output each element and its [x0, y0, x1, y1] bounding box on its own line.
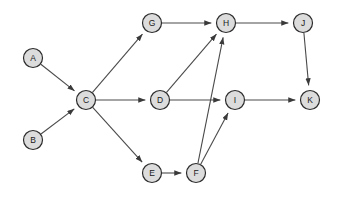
node-label-k: K — [307, 95, 313, 105]
node-label-h: H — [223, 18, 229, 28]
node-k[interactable]: K — [301, 91, 320, 110]
node-label-j: J — [301, 18, 305, 28]
edge-j-to-k — [304, 33, 309, 85]
node-g[interactable]: G — [143, 14, 162, 33]
node-i[interactable]: I — [226, 91, 245, 110]
edge-f-to-i — [201, 113, 228, 164]
node-b[interactable]: B — [24, 131, 43, 150]
nodes-layer: ABCDEFGHIJK — [24, 14, 320, 183]
node-e[interactable]: E — [143, 164, 162, 183]
node-d[interactable]: D — [151, 91, 170, 110]
edge-a-to-c — [41, 64, 75, 91]
edge-d-to-h — [167, 34, 217, 92]
node-h[interactable]: H — [217, 14, 236, 33]
node-label-f: F — [193, 168, 198, 178]
node-c[interactable]: C — [77, 91, 96, 110]
edge-c-to-e — [93, 107, 142, 162]
node-label-i: I — [234, 95, 236, 105]
node-label-e: E — [149, 168, 155, 178]
diagram-canvas: ABCDEFGHIJK — [0, 0, 338, 198]
node-label-a: A — [30, 53, 36, 63]
directed-graph: ABCDEFGHIJK — [0, 0, 338, 198]
edge-c-to-g — [93, 34, 143, 92]
node-a[interactable]: A — [24, 49, 43, 68]
node-label-c: C — [83, 95, 89, 105]
node-label-b: B — [30, 135, 36, 145]
node-label-d: D — [157, 95, 163, 105]
node-j[interactable]: J — [294, 14, 313, 33]
edge-b-to-c — [41, 109, 74, 134]
node-label-g: G — [149, 18, 156, 28]
node-f[interactable]: F — [187, 164, 206, 183]
